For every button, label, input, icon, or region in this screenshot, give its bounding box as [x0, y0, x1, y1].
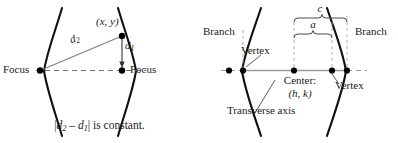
center-label: Center:: [269, 75, 331, 87]
left-focus-dot: [37, 67, 43, 73]
d1-label: d1: [125, 40, 134, 53]
left-diagram-panel: Focus Focus (x, y) d2 d1 |d2 – d1| is co…: [0, 0, 199, 143]
d1-arrowhead: [119, 62, 124, 69]
right-focus-dot: [119, 67, 125, 73]
center-coords-label: (h, k): [269, 88, 331, 100]
vertex-right-label: Vertex: [335, 80, 364, 92]
right-vertex-dot: [329, 67, 335, 73]
left-focus-dot: [226, 67, 232, 73]
center-dot: [291, 67, 297, 73]
focus-left-label: Focus: [3, 64, 29, 76]
brace-c-label: c: [305, 3, 335, 15]
branch-right-label: Branch: [355, 26, 387, 38]
right-diagram-panel: Branch Branch Vertex Vertex Center: (h, …: [199, 0, 398, 143]
caption-suffix: | is constant.: [88, 119, 145, 131]
left-diagram-caption: |d2 – d1| is constant.: [0, 119, 199, 134]
brace-a-label: a: [298, 19, 328, 31]
left-branch-curve: [44, 8, 62, 136]
vertex-left-label: Vertex: [241, 45, 270, 57]
hyperbola-figure: Focus Focus (x, y) d2 d1 |d2 – d1| is co…: [0, 0, 398, 143]
d1-subscript: 1: [131, 44, 135, 53]
branch-left-label: Branch: [203, 26, 235, 38]
transverse-axis-label: Transverse axis: [227, 105, 295, 117]
left-vertex-dot: [240, 67, 246, 73]
caption-minus: –: [66, 119, 78, 131]
point-xy-label: (x, y): [96, 16, 119, 28]
brace-a: [294, 31, 332, 39]
left-vertex-leader-line: [246, 55, 261, 67]
right-focus-dot: [344, 67, 350, 73]
focus-right-label: Focus: [130, 64, 156, 76]
